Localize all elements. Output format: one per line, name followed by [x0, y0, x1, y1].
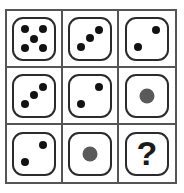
die-pip — [39, 44, 47, 52]
die-pip — [21, 158, 29, 166]
grid-cell-r1c3 — [119, 11, 175, 68]
grid-cell-r2c1 — [7, 68, 63, 125]
die-face-1 — [68, 132, 112, 176]
grid-cell-r1c2 — [63, 11, 119, 68]
die-pip — [134, 43, 142, 51]
die-pip — [39, 25, 47, 33]
die-face-2 — [68, 74, 112, 118]
die-face-unknown: ? — [125, 132, 169, 176]
die-pip — [95, 26, 103, 34]
die-pip — [77, 43, 85, 51]
die-face-2 — [125, 17, 169, 61]
die-pip — [21, 25, 29, 33]
die-pip — [30, 35, 38, 43]
grid-cell-r3c2 — [63, 125, 119, 182]
grid-cell-r3c1 — [7, 125, 63, 182]
dice-grid: ? — [5, 9, 177, 184]
die-pip — [21, 100, 29, 108]
die-pip — [39, 141, 47, 149]
die-pip — [86, 34, 94, 42]
die-face-2 — [12, 132, 56, 176]
die-face-1 — [125, 74, 169, 118]
die-pip — [39, 83, 47, 91]
die-pip — [21, 44, 29, 52]
die-pip — [30, 91, 38, 99]
die-pip — [140, 88, 155, 103]
die-face-5 — [12, 17, 56, 61]
die-pip — [152, 26, 160, 34]
grid-cell-r2c3 — [119, 68, 175, 125]
die-pip — [83, 146, 98, 161]
grid-cell-r1c1 — [7, 11, 63, 68]
question-mark-label: ? — [137, 136, 158, 170]
grid-cell-r2c2 — [63, 68, 119, 125]
grid-cell-r3c3: ? — [119, 125, 175, 182]
die-face-3 — [12, 74, 56, 118]
die-pip — [77, 100, 85, 108]
dice-puzzle-image: ? — [0, 0, 184, 193]
die-face-3 — [68, 17, 112, 61]
die-pip — [95, 83, 103, 91]
